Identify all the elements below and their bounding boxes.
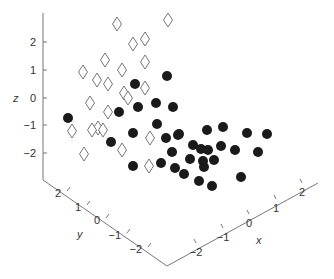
dot-marker (230, 145, 240, 155)
diamond-marker (68, 124, 77, 138)
diamond-marker (129, 37, 138, 51)
diamond-marker (141, 81, 150, 95)
dot-marker (128, 161, 138, 171)
dot-marker (170, 163, 180, 173)
scatter-3d-plot: 210−1−2 210−1−2 −2−1012 z y x (0, 0, 334, 279)
dot-marker (179, 169, 189, 179)
diamond-marker (101, 53, 110, 67)
y-tick (106, 214, 109, 218)
y-tick (67, 187, 70, 191)
y-tick-label: −1 (108, 229, 121, 241)
dot-marker (156, 158, 166, 168)
y-axis-line (43, 180, 167, 266)
dot-marker (203, 145, 213, 155)
diamond-marker (141, 32, 150, 46)
dot-marker (168, 102, 178, 112)
x-tick (221, 224, 223, 228)
dot-marker (151, 98, 161, 108)
z-tick-label: −2 (23, 147, 36, 159)
dot-marker (167, 147, 177, 157)
x-tick (274, 195, 276, 199)
y-tick-label: −2 (129, 243, 142, 255)
dot-marker (63, 113, 73, 123)
diamond-marker (118, 143, 127, 157)
dot-marker (216, 141, 226, 151)
dot-marker (262, 129, 272, 139)
x-tick (300, 179, 302, 183)
dot-marker (130, 79, 140, 89)
x-axis-ticks: −2−1012 (190, 179, 305, 258)
diamond-marker (141, 55, 150, 69)
x-tick-label: −1 (217, 231, 230, 243)
x-tick-label: 0 (246, 217, 252, 229)
diamond-marker (104, 77, 113, 91)
dot-marker (209, 155, 219, 165)
axes (43, 13, 318, 266)
z-tick-label: 2 (30, 36, 36, 48)
diamond-marker (113, 17, 122, 31)
diamond-marker (145, 159, 154, 173)
dot-marker (162, 71, 172, 81)
z-tick-label: −1 (23, 119, 36, 131)
y-tick (148, 243, 151, 247)
dot-marker (253, 147, 263, 157)
dot-marker (152, 119, 162, 129)
dot-marker (161, 133, 171, 143)
diamond-marker (93, 73, 102, 87)
dot-marker (133, 102, 143, 112)
dot-marker (236, 172, 246, 182)
dot-marker (174, 129, 184, 139)
x-tick-label: −2 (190, 246, 203, 258)
dot-marker (207, 181, 217, 191)
z-tick-label: 1 (30, 64, 36, 76)
y-tick-label: 1 (75, 201, 81, 213)
x-tick-label: 1 (273, 202, 279, 214)
x-tick (194, 239, 196, 243)
dot-marker (114, 107, 124, 117)
dot-marker (185, 154, 195, 164)
y-tick (127, 229, 130, 233)
dot-marker (106, 137, 116, 147)
dot-marker (202, 125, 212, 135)
dot-marker (242, 128, 252, 138)
y-tick (87, 201, 90, 205)
y-tick-label: 0 (94, 214, 100, 226)
diamond-marker (79, 65, 88, 79)
diamond-marker (118, 63, 127, 77)
y-tick-label: 2 (55, 187, 61, 199)
x-tick-label: 2 (299, 186, 305, 198)
diamond-marker (104, 105, 113, 119)
x-tick (247, 210, 249, 214)
diamond-marker (86, 96, 95, 110)
dot-marker (194, 176, 204, 186)
dot-marker (199, 162, 209, 172)
x-axis-label: x (255, 234, 262, 246)
diamond-marker (80, 147, 89, 161)
diamond-marker (146, 131, 155, 145)
dot-marker (218, 122, 228, 132)
z-axis-label: z (12, 92, 19, 104)
diamond-marker (164, 13, 173, 27)
dot-marker (128, 128, 138, 138)
z-tick-label: 0 (30, 92, 36, 104)
y-axis-label: y (76, 228, 84, 240)
data-markers (63, 13, 272, 191)
